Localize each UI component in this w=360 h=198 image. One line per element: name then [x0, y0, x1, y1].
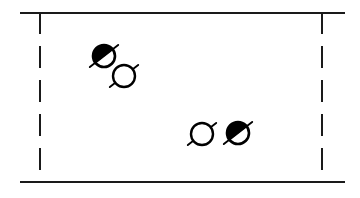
particle-outline-icon — [113, 65, 135, 87]
particle-outline-icon — [191, 123, 213, 145]
figure-background — [0, 0, 360, 198]
figure-root — [0, 0, 360, 198]
diagram-canvas — [0, 0, 360, 198]
